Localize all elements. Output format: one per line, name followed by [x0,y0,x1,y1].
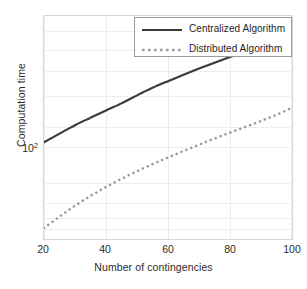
figure-semilog-computation-time: Computation time 102 [0,0,307,289]
x-axis-label: Number of contingencies [0,261,307,273]
legend-label-centralized-algorithm: Centralized Algorithm [189,23,285,34]
legend-swatch-solid-line [141,22,183,34]
legend-item-centralized-algorithm[interactable]: Centralized Algorithm [135,18,291,38]
series-line-distributed-algorithm [44,108,292,228]
x-tick-100: 100 [283,243,301,255]
y-tick-mantissa: 10 [22,142,34,154]
y-axis-tick-labels: 102 [0,0,41,289]
x-tick-20: 20 [37,243,49,255]
x-tick-40: 40 [99,243,111,255]
legend-swatch-dotted-line [141,42,183,54]
y-tick-exponent: 2 [34,141,38,150]
plot-area: Centralized Algorithm Distributed Algori… [43,15,293,240]
legend-item-distributed-algorithm[interactable]: Distributed Algorithm [135,38,291,58]
legend-label-distributed-algorithm: Distributed Algorithm [189,43,282,54]
y-tick-1e2: 102 [22,142,38,154]
x-tick-80: 80 [224,243,236,255]
x-tick-60: 60 [162,243,174,255]
legend[interactable]: Centralized Algorithm Distributed Algori… [134,17,292,57]
